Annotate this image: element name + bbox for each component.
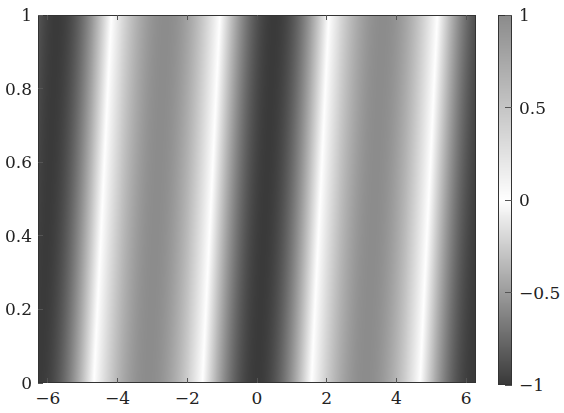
colorbar-tick-mark xyxy=(505,107,512,108)
x-tick-mark xyxy=(326,378,327,383)
x-tick-mark xyxy=(117,378,118,383)
colorbar-tick-label: −0.5 xyxy=(519,284,560,301)
heatmap-canvas xyxy=(39,16,475,382)
x-tick-label: 4 xyxy=(391,390,402,407)
x-tick-mark xyxy=(47,378,48,383)
colorbar-tick-mark xyxy=(505,15,512,16)
colorbar-tick-label: 0.5 xyxy=(519,99,546,116)
y-tick-mark xyxy=(38,309,43,310)
x-tick-mark-top xyxy=(466,15,467,20)
colorbar-tick-label: 0 xyxy=(519,192,530,209)
y-tick-label: 0.6 xyxy=(5,154,32,171)
colorbar-tick-mark xyxy=(505,292,512,293)
x-tick-mark xyxy=(466,378,467,383)
y-tick-label: 0.2 xyxy=(5,301,32,318)
x-tick-mark-top xyxy=(117,15,118,20)
x-tick-label: 6 xyxy=(461,390,472,407)
colorbar-tick-label: 1 xyxy=(519,7,530,24)
x-tick-mark xyxy=(396,378,397,383)
x-tick-mark-top xyxy=(47,15,48,20)
x-tick-mark-top xyxy=(396,15,397,20)
heatmap-plot-area xyxy=(38,15,476,383)
y-tick-label: 0 xyxy=(21,375,32,392)
y-tick-mark xyxy=(38,162,43,163)
x-tick-mark-top xyxy=(187,15,188,20)
y-tick-mark xyxy=(38,15,43,16)
x-tick-label: −4 xyxy=(105,390,130,407)
y-tick-label: 0.8 xyxy=(5,80,32,97)
x-tick-mark-top xyxy=(257,15,258,20)
y-tick-mark xyxy=(38,235,43,236)
x-tick-label: 2 xyxy=(321,390,332,407)
y-tick-mark xyxy=(38,383,43,384)
y-tick-mark xyxy=(38,88,43,89)
y-tick-label: 1 xyxy=(21,7,32,24)
x-tick-mark xyxy=(187,378,188,383)
x-tick-mark-top xyxy=(326,15,327,20)
x-tick-mark xyxy=(257,378,258,383)
x-tick-label: −2 xyxy=(175,390,200,407)
colorbar-tick-label: −1 xyxy=(519,377,544,394)
colorbar-tick-mark xyxy=(505,200,512,201)
colorbar-tick-mark xyxy=(505,385,512,386)
x-tick-label: 0 xyxy=(252,390,263,407)
y-tick-label: 0.4 xyxy=(5,227,32,244)
x-tick-label: −6 xyxy=(35,390,60,407)
